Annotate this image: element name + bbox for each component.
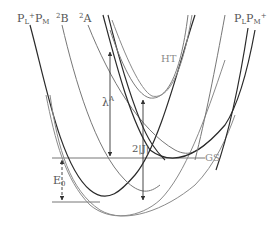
label-energy-gap: E0 [53,174,66,188]
label-2a: 2A [79,12,92,25]
curve-2a [88,25,210,153]
curve-2b [62,25,160,191]
label-pl-plus-pm: PL+PM [17,12,50,26]
label-gs: GS [205,152,220,163]
curve-pl-plus-pm [30,15,195,196]
label-coupling: 2|J| [132,143,149,155]
curve-ht-outer [112,15,192,96]
curve-right-gray [195,15,225,160]
curve-pl-plus-pm-companion [46,60,225,216]
label-pl-pm-plus: PLPM+ [234,12,267,26]
label-2b: 2B [56,12,69,25]
label-lambda: λA [102,95,115,109]
potential-energy-diagram: PL+PM 2B 2A PLPM+ HT GS λA 2|J| E0 [0,0,271,230]
label-ht: HT [161,53,177,64]
curve-dark-central [103,15,255,158]
